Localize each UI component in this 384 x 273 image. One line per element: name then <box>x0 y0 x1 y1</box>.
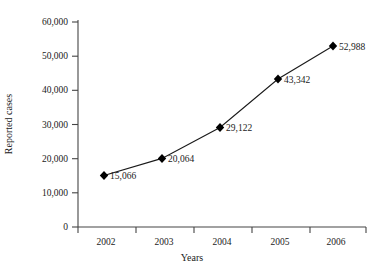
data-point-markers <box>100 42 337 181</box>
x-tick-label: 2004 <box>200 238 244 248</box>
data-point-marker <box>100 171 108 180</box>
y-axis-title: Reported cases <box>3 94 14 154</box>
y-tick-label: 0 <box>20 223 68 233</box>
y-tick-label: 20,000 <box>20 155 68 165</box>
x-tick-label: 2003 <box>142 238 186 248</box>
data-point-label: 20,064 <box>168 155 194 165</box>
x-tick-label: 2006 <box>314 238 358 248</box>
data-point-label: 29,122 <box>226 124 252 134</box>
y-tick-marks <box>72 22 78 227</box>
y-tick-label: 60,000 <box>20 18 68 28</box>
y-tick-label: 30,000 <box>20 121 68 131</box>
data-point-marker <box>329 42 337 51</box>
data-point-label: 43,342 <box>284 76 310 86</box>
data-point-marker <box>158 154 166 163</box>
y-tick-label: 40,000 <box>20 86 68 96</box>
data-point-label: 52,988 <box>339 43 365 53</box>
data-line <box>104 46 333 176</box>
line-chart: 0 10,000 20,000 30,000 40,000 50,000 60,… <box>0 0 384 273</box>
x-axis-title: Years <box>0 252 384 263</box>
y-tick-label: 10,000 <box>20 189 68 199</box>
x-tick-marks <box>78 227 366 233</box>
data-point-label: 15,066 <box>110 172 136 182</box>
y-tick-label: 50,000 <box>20 52 68 62</box>
x-tick-label: 2005 <box>258 238 302 248</box>
x-tick-label: 2002 <box>84 238 128 248</box>
